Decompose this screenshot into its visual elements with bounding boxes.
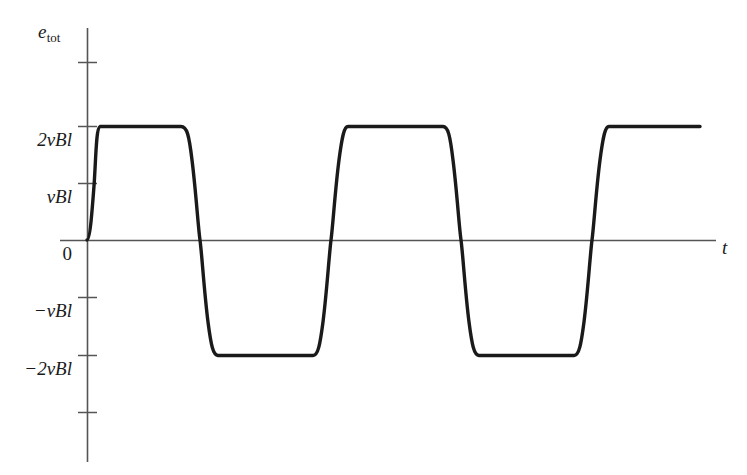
y-tick-label-zero: 0 (8, 244, 72, 263)
y-tick-label-neg-vBl: −vBl (0, 301, 72, 320)
chart-figure: etot t 2vBl vBl 0 −vBl −2vBl (0, 0, 747, 475)
x-axis-label: t (722, 238, 727, 257)
plot-area (0, 0, 747, 475)
y-tick-label-2vBl: 2vBl (8, 130, 72, 149)
y-tick-label-vBl: vBl (8, 187, 72, 206)
y-axis-label: etot (38, 22, 60, 41)
y-axis-label-base: e (38, 21, 46, 42)
y-tick-label-neg-2vBl: −2vBl (0, 359, 72, 378)
y-axis-label-subscript: tot (47, 30, 61, 45)
